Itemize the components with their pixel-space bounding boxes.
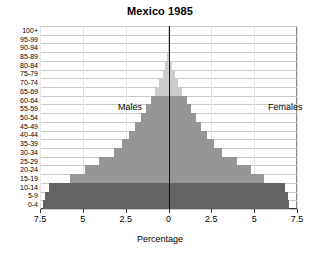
y-axis-tick-label: 55-59 xyxy=(2,105,38,112)
x-axis-title: Percentage xyxy=(0,234,320,244)
bar-female xyxy=(169,200,290,209)
y-axis-tick-label: 50-54 xyxy=(2,114,38,121)
x-axis-tick-mark xyxy=(40,209,41,213)
y-axis-tick-label: 20-24 xyxy=(2,166,38,173)
plot-area: Males Females xyxy=(40,26,297,209)
bar-male xyxy=(129,131,168,140)
y-axis-tick-label: 35-39 xyxy=(2,140,38,147)
bar-female xyxy=(169,78,179,87)
x-axis-tick-label: 7.5 xyxy=(277,214,317,224)
x-axis-tick-mark xyxy=(297,209,298,213)
bar-male xyxy=(114,148,169,157)
bar-male xyxy=(43,200,169,209)
bar-female xyxy=(169,165,251,174)
y-axis-tick-label: 95-99 xyxy=(2,36,38,43)
y-axis-tick-label: 90-94 xyxy=(2,44,38,51)
bar-male xyxy=(122,139,168,148)
bar-female xyxy=(169,104,191,113)
x-axis-tick-label: 2.5 xyxy=(106,214,146,224)
x-axis-tick-mark xyxy=(254,209,255,213)
bar-female xyxy=(169,148,223,157)
bar-female xyxy=(169,157,238,166)
y-axis-tick-label: 40-44 xyxy=(2,131,38,138)
bar-male xyxy=(99,157,168,166)
y-axis-tick-label: 65-69 xyxy=(2,88,38,95)
bar-male xyxy=(85,165,168,174)
x-axis-tick-labels: 7.552.502.557.5 xyxy=(40,214,297,228)
bar-female xyxy=(169,122,202,131)
x-axis-tick-label: 2.5 xyxy=(191,214,231,224)
y-axis-tick-label: 100+ xyxy=(2,27,38,34)
y-axis-tick-label: 10-14 xyxy=(2,184,38,191)
bar-male xyxy=(135,122,168,131)
y-axis-tick-label: 15-19 xyxy=(2,175,38,182)
x-axis-tick-label: 5 xyxy=(234,214,274,224)
population-pyramid-chart: Mexico 1985 0-45-910-1415-1920-2425-2930… xyxy=(0,0,320,258)
males-label: Males xyxy=(118,102,142,112)
x-axis-tick-mark xyxy=(211,209,212,213)
bar-male xyxy=(159,78,168,87)
bar-male xyxy=(49,183,168,192)
y-axis-tick-label: 25-29 xyxy=(2,158,38,165)
bar-male xyxy=(70,174,169,183)
bar-female xyxy=(169,174,265,183)
bar-male xyxy=(45,192,168,201)
x-axis-tick-mark xyxy=(169,209,170,213)
x-axis-tick-mark xyxy=(126,209,127,213)
chart-title: Mexico 1985 xyxy=(0,5,320,17)
y-axis-tick-label: 5-9 xyxy=(2,192,38,199)
y-axis-tick-label: 0-4 xyxy=(2,201,38,208)
y-axis-tick-labels: 0-45-910-1415-1920-2425-2930-3435-3940-4… xyxy=(0,26,38,209)
bar-male xyxy=(151,96,169,105)
bar-male xyxy=(141,113,168,122)
y-axis-tick-label: 60-64 xyxy=(2,97,38,104)
bar-male xyxy=(146,104,168,113)
center-axis-line xyxy=(169,26,170,209)
bar-female xyxy=(169,113,196,122)
y-axis-tick-label: 70-74 xyxy=(2,79,38,86)
bar-female xyxy=(169,96,188,105)
y-axis-tick-label: 45-49 xyxy=(2,123,38,130)
bar-female xyxy=(169,87,183,96)
x-axis-tick-label: 5 xyxy=(63,214,103,224)
y-axis-tick-label: 75-79 xyxy=(2,70,38,77)
y-axis-tick-label: 80-84 xyxy=(2,62,38,69)
bar-female xyxy=(169,183,286,192)
bar-male xyxy=(155,87,168,96)
x-axis-tick-label: 7.5 xyxy=(20,214,60,224)
gridline-vertical xyxy=(297,26,298,209)
x-axis-tick-mark xyxy=(83,209,84,213)
y-axis-tick-label: 30-34 xyxy=(2,149,38,156)
females-label: Females xyxy=(268,102,303,112)
y-axis-tick-label: 85-89 xyxy=(2,53,38,60)
bar-female xyxy=(169,192,288,201)
x-axis-tick-label: 0 xyxy=(149,214,189,224)
bar-female xyxy=(169,131,208,140)
bar-female xyxy=(169,139,214,148)
